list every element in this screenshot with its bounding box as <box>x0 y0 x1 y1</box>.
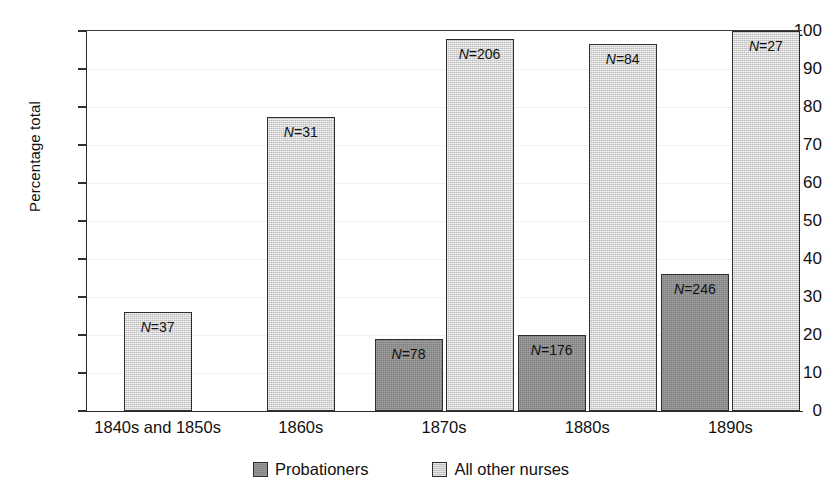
bar-value-label: N=246 <box>662 281 728 297</box>
legend: ProbationersAll other nurses <box>0 460 822 479</box>
bar-all-other-nurses-1: N=31 <box>267 117 335 412</box>
bar-chart: Percentage total 0102030405060708090100 … <box>0 0 822 500</box>
legend-swatch-icon <box>253 462 268 477</box>
x-axis-label-1: 1860s <box>229 418 372 437</box>
legend-swatch-icon <box>432 462 447 477</box>
bar-all-other-nurses-2: N=206 <box>446 39 514 411</box>
bar-all-other-nurses-4: N=27 <box>732 31 800 411</box>
bar-value-label: N=206 <box>447 46 513 62</box>
bar-value-label: N=176 <box>519 342 585 358</box>
bar-probationers-4: N=246 <box>661 274 729 411</box>
legend-item-0: Probationers <box>253 460 369 479</box>
bar-value-label: N=27 <box>733 38 799 54</box>
bar-probationers-2: N=78 <box>375 339 443 411</box>
x-axis-label-3: 1880s <box>516 418 659 437</box>
x-axis-label-2: 1870s <box>372 418 515 437</box>
y-axis-title: Percentage total <box>26 27 43 287</box>
legend-item-1: All other nurses <box>432 460 569 479</box>
x-axis-label-0: 1840s and 1850s <box>86 418 229 437</box>
bar-all-other-nurses-0: N=37 <box>124 312 192 411</box>
bar-value-label: N=31 <box>268 124 334 140</box>
legend-label: All other nurses <box>454 460 569 479</box>
bar-value-label: N=84 <box>590 51 656 67</box>
bar-value-label: N=78 <box>376 346 442 362</box>
legend-label: Probationers <box>275 460 369 479</box>
bar-value-label: N=37 <box>125 319 191 335</box>
bar-all-other-nurses-3: N=84 <box>589 44 657 411</box>
x-axis-label-4: 1890s <box>659 418 802 437</box>
bar-probationers-3: N=176 <box>518 335 586 411</box>
